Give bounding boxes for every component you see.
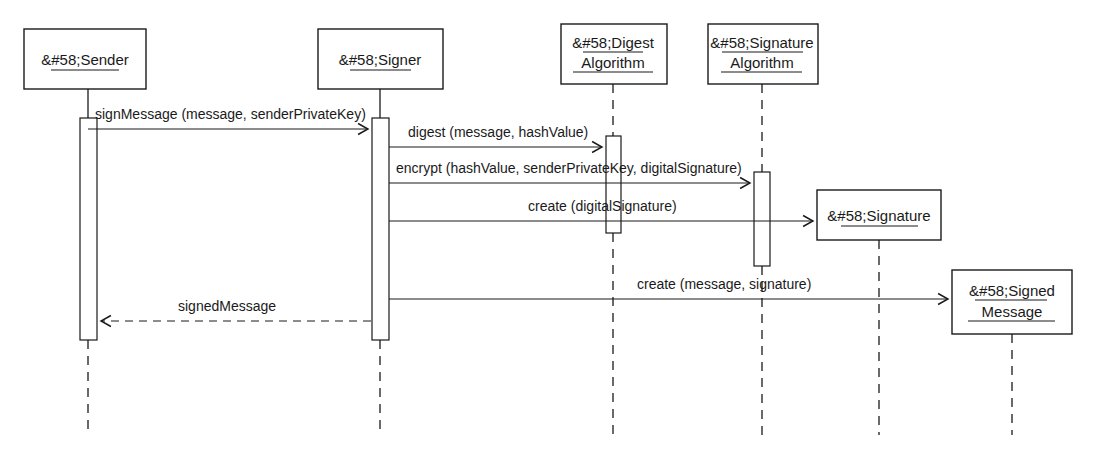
activation-bar-signer (372, 118, 389, 340)
lifeline-label-signedmsg-line2: Message (982, 303, 1043, 320)
message-label: create (digitalSignature) (528, 198, 677, 214)
lifeline-head-digest-algorithm[interactable]: &#58;Digest Algorithm (561, 24, 667, 84)
message-signed-message-return[interactable]: signedMessage (101, 298, 371, 321)
lifeline-head-signed-message[interactable]: &#58;Signed Message (952, 270, 1072, 334)
lifeline-head-signer[interactable]: &#58;Signer (318, 29, 443, 89)
message-label: digest (message, hashValue) (408, 124, 588, 140)
lifeline-label-signature: &#58;Signature (827, 207, 930, 224)
message-create-digital-signature[interactable]: create (digitalSignature) (389, 198, 813, 221)
lifeline-label-signer: &#58;Signer (339, 51, 422, 68)
activation-bar-digest-algorithm (606, 136, 621, 233)
lifeline-label-sigalg-line2: Algorithm (730, 54, 793, 71)
lifeline-label-sigalg-line1: &#58;Signature (710, 34, 813, 51)
lifeline-label-digest-line2: Algorithm (581, 54, 644, 71)
message-encrypt[interactable]: encrypt (hashValue, senderPrivateKey, di… (389, 160, 750, 183)
message-sign-message[interactable]: signMessage (message, senderPrivateKey) (88, 106, 368, 129)
lifeline-head-sender[interactable]: &#58;Sender (24, 29, 146, 89)
message-label: create (message, signature) (637, 276, 811, 292)
activation-bar-sender (80, 118, 97, 340)
lifeline-label-sender: &#58;Sender (41, 51, 129, 68)
message-create-signed-message[interactable]: create (message, signature) (389, 276, 948, 299)
sequence-diagram-canvas: &#58;Sender &#58;Signer &#58;Digest Algo… (0, 0, 1100, 469)
lifeline-label-signedmsg-line1: &#58;Signed (969, 282, 1055, 299)
message-digest[interactable]: digest (message, hashValue) (389, 124, 602, 147)
lifeline-label-digest-line1: &#58;Digest (572, 34, 655, 51)
message-label: signedMessage (178, 298, 276, 314)
message-label: encrypt (hashValue, senderPrivateKey, di… (396, 160, 742, 176)
lifeline-head-signature[interactable]: &#58;Signature (817, 190, 941, 240)
diagram-svg: &#58;Sender &#58;Signer &#58;Digest Algo… (0, 0, 1100, 469)
message-label: signMessage (message, senderPrivateKey) (95, 106, 366, 122)
lifeline-head-signature-algorithm[interactable]: &#58;Signature Algorithm (708, 24, 818, 84)
activation-bar-signature-algorithm (754, 172, 770, 266)
lifeline-box (952, 270, 1072, 334)
